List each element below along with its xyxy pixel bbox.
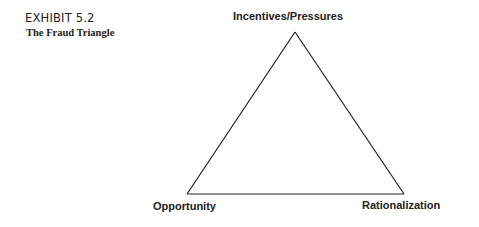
edge-incentives-rationalization: [295, 32, 404, 194]
vertex-label-opportunity: Opportunity: [153, 200, 216, 212]
edge-incentives-opportunity: [187, 32, 295, 194]
fraud-triangle-diagram: [0, 0, 479, 227]
vertex-label-rationalization: Rationalization: [362, 199, 440, 211]
vertex-label-incentives-pressures: Incentives/Pressures: [233, 10, 343, 22]
